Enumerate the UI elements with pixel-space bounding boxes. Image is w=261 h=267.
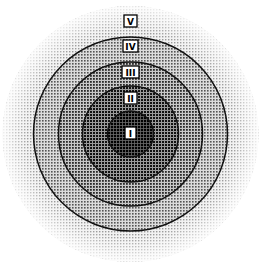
label-i: I: [125, 127, 136, 139]
label-ii: II: [124, 92, 137, 104]
svg-text:IV: IV: [125, 42, 135, 52]
concentric-ring-diagram: V IV III II I: [0, 0, 261, 267]
label-v: V: [124, 15, 137, 27]
label-iii: III: [122, 66, 139, 78]
svg-text:III: III: [125, 68, 135, 78]
svg-text:II: II: [127, 94, 134, 104]
label-iv: IV: [123, 40, 138, 52]
svg-text:I: I: [129, 129, 132, 139]
svg-text:V: V: [127, 17, 134, 27]
